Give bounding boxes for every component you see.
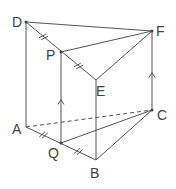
label-Q: Q xyxy=(48,145,59,161)
edge-PF xyxy=(61,31,152,52)
label-D: D xyxy=(12,14,22,30)
vertex-Q xyxy=(60,142,63,145)
edge-DF xyxy=(26,22,152,31)
label-B: B xyxy=(90,165,99,181)
vertex-P xyxy=(60,51,63,54)
label-P: P xyxy=(46,47,55,63)
label-F: F xyxy=(156,23,165,39)
prism-diagram: D F P E A C Q B xyxy=(0,0,176,189)
vertex-D xyxy=(25,21,28,24)
label-E: E xyxy=(96,83,105,99)
edge-QC xyxy=(61,110,152,143)
label-A: A xyxy=(12,121,22,137)
vertex-C xyxy=(151,109,154,112)
edge-EF xyxy=(96,31,152,80)
edge-AC-hidden xyxy=(26,110,152,127)
edge-BC xyxy=(96,110,152,160)
label-C: C xyxy=(157,107,167,123)
vertex-F xyxy=(151,30,154,33)
